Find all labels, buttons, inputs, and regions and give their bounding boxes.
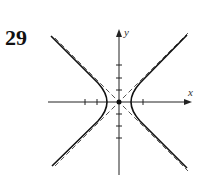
- asymptote-pos: [55, 33, 188, 166]
- left-branch: [51, 36, 107, 166]
- hyperbola-graph: x y: [0, 0, 214, 188]
- y-axis-arrow-icon: [116, 29, 122, 37]
- x-axis-arrow-icon: [184, 99, 192, 105]
- origin-point: [117, 100, 122, 105]
- asymptote-neg: [55, 38, 188, 171]
- y-axis-label: y: [123, 26, 129, 38]
- x-axis-label: x: [187, 86, 193, 98]
